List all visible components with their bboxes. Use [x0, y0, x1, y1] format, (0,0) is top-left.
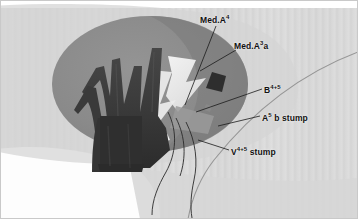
label-med-a3a: Med.A3a: [234, 40, 268, 50]
label-med-a3a-suffix: a: [263, 41, 268, 51]
label-med-a4-base: Med.A: [200, 15, 226, 25]
label-med-a4-sup: 4: [226, 14, 229, 20]
label-v45-stump-suffix: stump: [247, 147, 275, 157]
surgical-illustration-figure: Med.A4 Med.A3a B4+5 A5 b stump V4+5 stum…: [0, 0, 358, 219]
label-b45-sup: 4+5: [270, 84, 280, 90]
label-med-a3a-base: Med.A: [234, 41, 260, 51]
label-a5b-stump: A5 b stump: [262, 112, 308, 122]
label-v45-stump-sup: 4+5: [237, 146, 247, 152]
illustration-canvas: [0, 0, 358, 219]
label-b45: B4+5: [264, 84, 281, 94]
label-v45-stump: V4+5 stump: [231, 146, 276, 156]
label-med-a4: Med.A4: [200, 14, 229, 24]
label-a5b-stump-suffix: b stump: [272, 113, 308, 123]
